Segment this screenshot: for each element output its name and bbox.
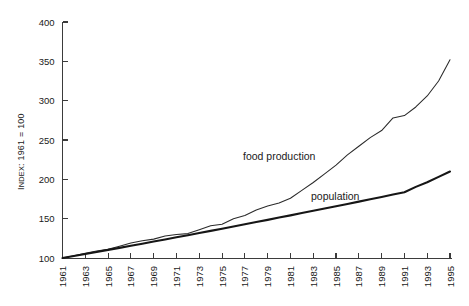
x-tick-label-1961: 1961 [57, 266, 68, 287]
series-line-population [63, 171, 451, 258]
x-tick-label-1991: 1991 [399, 266, 410, 287]
x-tick-label-1963: 1963 [80, 266, 91, 287]
y-tick-label-350: 350 [39, 56, 55, 67]
y-axis: 100150200250300350400 [39, 17, 68, 264]
y-tick-label-150: 150 [39, 213, 55, 224]
series-annotations: food productionpopulation [243, 150, 360, 202]
x-tick-label-1967: 1967 [125, 266, 136, 287]
y-axis-title: INDEX: 1961 = 100 [16, 113, 26, 190]
x-tick-label-1977: 1977 [239, 266, 250, 287]
y-tick-labels: 100150200250300350400 [39, 17, 55, 264]
series-label-population: population [311, 190, 360, 202]
y-tick-label-200: 200 [39, 174, 55, 185]
x-tick-marks [63, 253, 451, 258]
y-tick-label-400: 400 [39, 17, 55, 28]
x-tick-label-1979: 1979 [262, 266, 273, 287]
x-tick-labels: 1961196319651967196919711973197519771979… [57, 266, 456, 287]
x-tick-label-1973: 1973 [194, 266, 205, 287]
x-tick-label-1971: 1971 [171, 266, 182, 287]
chart-container: 100150200250300350400 196119631965196719… [0, 0, 469, 306]
y-tick-marks [63, 22, 68, 258]
x-tick-label-1989: 1989 [376, 266, 387, 287]
x-tick-label-1981: 1981 [285, 266, 296, 287]
x-tick-label-1969: 1969 [148, 266, 159, 287]
line-chart: 100150200250300350400 196119631965196719… [0, 0, 469, 306]
x-tick-label-1995: 1995 [445, 266, 456, 287]
x-tick-label-1965: 1965 [103, 266, 114, 287]
y-tick-label-250: 250 [39, 135, 55, 146]
y-tick-label-300: 300 [39, 95, 55, 106]
y-tick-label-100: 100 [39, 253, 55, 264]
series-label-food-production: food production [243, 150, 316, 162]
x-axis: 1961196319651967196919711973197519771979… [57, 253, 456, 287]
x-tick-label-1975: 1975 [217, 266, 228, 287]
x-tick-label-1993: 1993 [422, 266, 433, 287]
x-tick-label-1983: 1983 [308, 266, 319, 287]
x-tick-label-1985: 1985 [331, 266, 342, 287]
x-tick-label-1987: 1987 [353, 266, 364, 287]
